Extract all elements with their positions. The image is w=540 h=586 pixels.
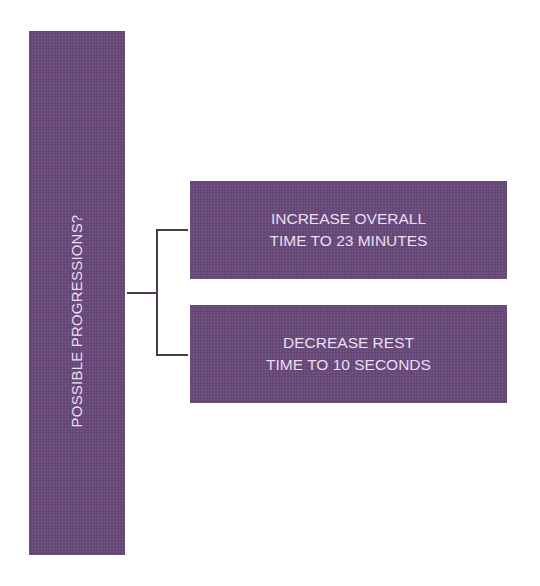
root-node-label: POSSIBLE PROGRESSIONS? [68, 215, 85, 428]
connector-branch-line-1 [156, 229, 188, 231]
option-node-1: INCREASE OVERALL TIME TO 23 MINUTES [190, 181, 507, 279]
connector-vertical-line [156, 229, 158, 356]
option-node-2: DECREASE REST TIME TO 10 SECONDS [190, 305, 507, 403]
option-node-1-line-1: INCREASE OVERALL [271, 208, 426, 230]
connector-branch-line-2 [156, 354, 188, 356]
option-node-2-line-2: TIME TO 10 SECONDS [266, 354, 431, 376]
root-node-bar: POSSIBLE PROGRESSIONS? [29, 31, 125, 555]
connector-stub-line [127, 292, 157, 294]
option-node-1-line-2: TIME TO 23 MINUTES [270, 230, 428, 252]
option-node-2-line-1: DECREASE REST [283, 332, 414, 354]
